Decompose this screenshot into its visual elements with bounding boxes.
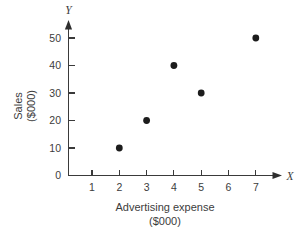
y-axis-arrow-icon [65, 20, 72, 30]
y-tick-label-50: 50 [49, 32, 61, 44]
x-axis-title-line1: Advertising expense [115, 201, 214, 213]
x-axis-letter: X [285, 170, 294, 182]
y-tick-label-20: 20 [49, 114, 61, 126]
y-axis-title-line2: ($000) [25, 90, 37, 122]
y-tick-label-0: 0 [55, 169, 61, 181]
data-point [116, 145, 123, 152]
data-point [198, 90, 205, 97]
y-axis-title-line1: Sales [12, 92, 24, 120]
plot-area: 0 10 20 30 40 50 1 2 3 4 5 6 7 Y X Sales… [0, 0, 297, 231]
data-point [252, 35, 259, 42]
x-tick-label-1: 1 [89, 181, 95, 193]
x-axis-arrow-icon [273, 172, 283, 179]
x-tick-label-5: 5 [198, 181, 204, 193]
x-tick-label-2: 2 [116, 181, 122, 193]
x-tick-label-4: 4 [171, 181, 177, 193]
x-tick-label-6: 6 [226, 181, 232, 193]
scatter-chart: 0 10 20 30 40 50 1 2 3 4 5 6 7 Y X Sales… [0, 0, 297, 231]
y-tick-label-30: 30 [49, 87, 61, 99]
y-axis-title: Sales ($000) [12, 90, 37, 122]
y-tick-label-40: 40 [49, 59, 61, 71]
x-tick-label-7: 7 [253, 181, 259, 193]
data-point [143, 117, 150, 124]
x-axis-title-line2: ($000) [149, 215, 181, 227]
data-point [171, 62, 178, 69]
x-tick-label-3: 3 [144, 181, 150, 193]
y-tick-label-10: 10 [49, 142, 61, 154]
y-axis-letter: Y [65, 4, 73, 16]
